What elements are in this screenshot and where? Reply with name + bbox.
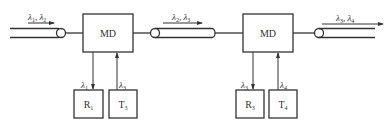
fiber-connector-icon (315, 29, 324, 38)
input-fiber: λ1, λ2 (10, 12, 83, 38)
md-box-1: MD (83, 14, 133, 52)
md-label-2: MD (260, 28, 276, 39)
output-fiber-label: λ3, λ4 (335, 13, 354, 24)
transmitter-t3: T3 (109, 90, 137, 118)
add-lambda-label: λ3 (118, 80, 126, 91)
add-lambda-label: λ4 (279, 80, 287, 91)
add-branch-t4: λ4 (278, 53, 287, 91)
receiver-r1: R1 (74, 90, 103, 118)
fiber-connector-icon (57, 29, 66, 38)
drop-branch-r1: λ1 (80, 52, 93, 91)
output-fiber: λ3, λ4 (293, 13, 383, 38)
drop-branch-r3: λ3 (240, 52, 253, 91)
transmitter-t4: T4 (269, 90, 297, 118)
add-branch-t3: λ3 (117, 53, 126, 91)
middle-fiber-label: λ2, λ3 (171, 12, 190, 23)
middle-fiber: λ2, λ3 (133, 12, 243, 38)
wdm-diagram: λ1, λ2 MD λ2, λ3 MD λ3, λ4 λ1 R1 (0, 0, 390, 130)
input-fiber-label: λ1, λ2 (27, 12, 46, 23)
receiver-r3: R3 (236, 90, 264, 118)
fiber-connector-icon (151, 29, 160, 38)
drop-lambda-label: λ1 (80, 80, 88, 91)
md-box-2: MD (243, 14, 293, 52)
drop-lambda-label: λ3 (240, 80, 248, 91)
md-label-1: MD (100, 28, 116, 39)
